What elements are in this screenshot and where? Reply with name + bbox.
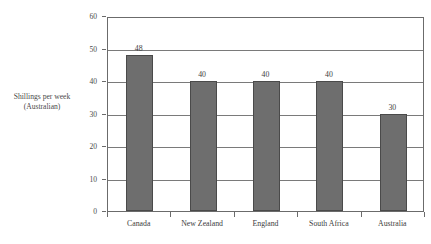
x-axis-tick-mark: [107, 212, 108, 217]
y-axis-tick-mark: [102, 211, 106, 212]
bar-value-label: 40: [309, 70, 349, 79]
y-axis-tick-mark: [102, 114, 106, 115]
y-axis-tick-mark: [102, 81, 106, 82]
y-axis-tick-label: 60: [75, 13, 97, 21]
y-axis-tick-mark: [102, 146, 106, 147]
bar: [253, 81, 280, 211]
y-axis-tick-label: 50: [75, 46, 97, 54]
x-axis-tick-mark: [361, 212, 362, 217]
x-axis-tick-mark: [424, 212, 425, 217]
bar: [380, 114, 407, 212]
y-axis-tick-mark: [102, 16, 106, 17]
bar-value-label: 40: [182, 70, 222, 79]
y-axis-tick-label: 10: [75, 176, 97, 184]
y-axis-caption: Shillings per week (Australian): [2, 92, 82, 112]
x-axis-tick-mark: [297, 212, 298, 217]
bar: [190, 81, 217, 211]
x-axis-category-label: Australia: [347, 219, 431, 229]
y-axis-tick-mark: [102, 49, 106, 50]
y-axis-tick-label: 40: [75, 78, 97, 86]
bar-value-label: 40: [246, 70, 286, 79]
y-axis-tick-label: 0: [75, 208, 97, 216]
y-axis-tick-mark: [102, 179, 106, 180]
x-axis-tick-mark: [234, 212, 235, 217]
bar-value-label: 30: [372, 103, 412, 112]
y-axis-tick-label: 20: [75, 143, 97, 151]
y-axis-caption-line-2: (Australian): [2, 102, 82, 112]
bar: [126, 55, 153, 211]
y-axis-caption-line-1: Shillings per week: [2, 92, 82, 102]
bar-value-label: 48: [119, 44, 159, 53]
chart-title-cutoff: [107, 0, 407, 2]
bar: [316, 81, 343, 211]
bar-chart-figure: Shillings per week (Australian) 01020304…: [0, 0, 431, 244]
x-axis-tick-mark: [170, 212, 171, 217]
y-axis-tick-label: 30: [75, 111, 97, 119]
